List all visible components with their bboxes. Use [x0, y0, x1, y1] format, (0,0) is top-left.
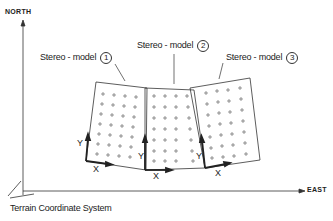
model-3-number: 3: [286, 52, 298, 64]
diagram-canvas: [0, 0, 333, 221]
model-1-number: 1: [100, 52, 112, 64]
model-1-x-label: X: [93, 164, 99, 174]
model-2-number: 2: [197, 40, 209, 52]
terrain-coordinate-caption: Terrain Coordinate System: [10, 203, 112, 213]
model-2-x-label: X: [153, 171, 159, 181]
north-axis-label: NORTH: [5, 8, 31, 15]
stereo-model-1-label: Stereo - model1: [40, 52, 112, 64]
model-3-x-label: X: [215, 168, 221, 178]
stereo-model-2-label: Stereo - model2: [137, 40, 209, 52]
model-2-y-label: Y: [138, 151, 144, 161]
stereo-model-3-label: Stereo - model3: [226, 52, 298, 64]
model-1-y-label: Y: [77, 138, 83, 148]
east-axis-label: EAST: [307, 186, 327, 193]
model-1-y-axis: [86, 138, 88, 161]
model-3-y-label: Y: [196, 151, 202, 161]
